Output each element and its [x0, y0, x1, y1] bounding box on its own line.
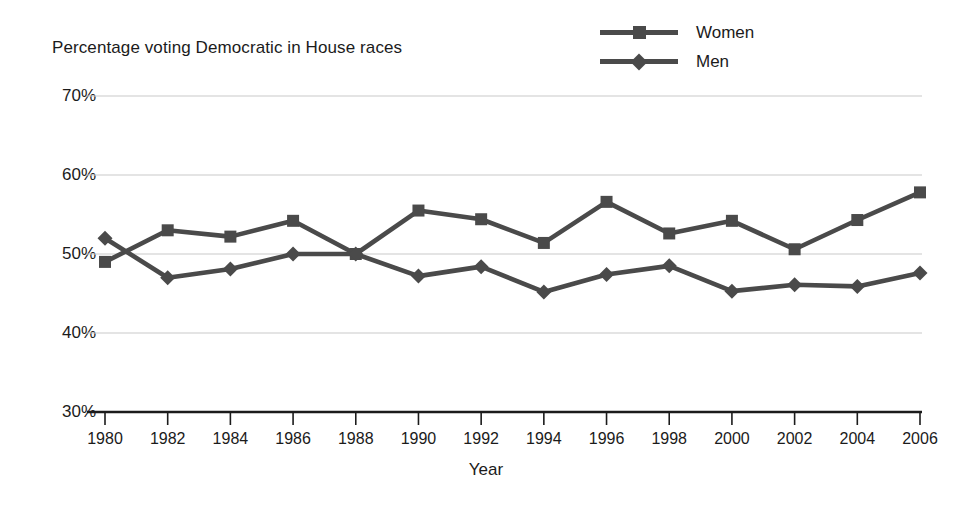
data-point-men-2004: [850, 279, 865, 294]
plot-area: [0, 0, 972, 506]
data-point-women-1982: [162, 224, 174, 236]
chart-container: Percentage voting Democratic in House ra…: [0, 0, 972, 506]
data-point-men-1990: [411, 269, 426, 284]
data-point-women-1984: [224, 231, 236, 243]
data-point-men-1986: [286, 247, 301, 262]
data-point-women-2000: [726, 215, 738, 227]
x-axis-title: Year: [0, 460, 972, 480]
data-point-men-1992: [474, 259, 489, 274]
data-point-women-1996: [601, 196, 613, 208]
data-point-men-1996: [599, 267, 614, 282]
data-point-men-1984: [223, 262, 238, 277]
data-point-women-1986: [287, 215, 299, 227]
data-point-women-2002: [789, 243, 801, 255]
data-point-women-1992: [475, 213, 487, 225]
data-point-women-1998: [663, 227, 675, 239]
data-point-men-2002: [787, 277, 802, 292]
data-point-women-1994: [538, 237, 550, 249]
data-point-women-1990: [412, 205, 424, 217]
data-point-men-1998: [662, 258, 677, 273]
data-point-men-2000: [724, 284, 739, 299]
data-point-women-2004: [851, 214, 863, 226]
data-point-women-2006: [914, 186, 926, 198]
data-point-men-1994: [536, 284, 551, 299]
data-point-women-1980: [99, 256, 111, 268]
data-point-men-2006: [913, 265, 928, 280]
